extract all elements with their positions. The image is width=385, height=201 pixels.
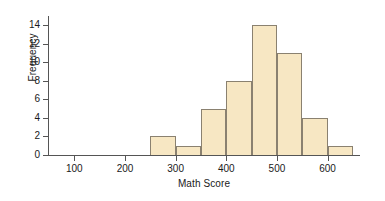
histogram-bar	[201, 109, 226, 155]
y-axis-tick-label: 4	[22, 113, 40, 123]
y-axis-tick-label: 12	[22, 39, 40, 49]
histogram-bar	[226, 81, 251, 155]
y-axis-tick-label: 6	[22, 94, 40, 104]
y-axis-tick-mark	[43, 44, 48, 45]
y-axis-tick-mark	[43, 99, 48, 100]
y-axis-tick-mark	[43, 25, 48, 26]
x-axis-tick-mark	[277, 156, 278, 161]
histogram-bar	[150, 136, 175, 155]
histogram-bar	[277, 53, 302, 155]
y-axis-tick-label: 2	[22, 131, 40, 141]
y-axis-tick-label: 8	[22, 76, 40, 86]
y-axis-tick-mark	[43, 155, 48, 156]
x-axis-tick-label: 500	[257, 163, 297, 174]
histogram-bar	[252, 25, 277, 155]
y-axis-tick-labels: 02468101214	[18, 0, 40, 201]
y-axis-tick-mark	[43, 81, 48, 82]
x-axis-line	[48, 155, 360, 156]
x-axis-title: Math Score	[48, 178, 360, 189]
y-axis-tick-label: 0	[22, 150, 40, 160]
plot-area	[49, 16, 360, 155]
x-axis-tick-mark	[125, 156, 126, 161]
x-axis-tick-label: 200	[105, 163, 145, 174]
y-axis-tick-label: 14	[22, 20, 40, 30]
x-axis-tick-label: 100	[54, 163, 94, 174]
y-axis-tick-mark	[43, 62, 48, 63]
x-axis-tick-mark	[74, 156, 75, 161]
histogram-bar	[176, 146, 201, 155]
x-axis-tick-mark	[176, 156, 177, 161]
histogram-bar	[302, 118, 327, 155]
histogram-bar	[328, 146, 353, 155]
y-axis-tick-mark	[43, 118, 48, 119]
x-axis-tick-mark	[328, 156, 329, 161]
y-axis-tick-label: 10	[22, 57, 40, 67]
histogram-chart: Frequency 02468101214 Math Score 1002003…	[0, 0, 385, 201]
y-axis-tick-mark	[43, 136, 48, 137]
x-axis-tick-mark	[226, 156, 227, 161]
x-axis-tick-label: 400	[206, 163, 246, 174]
x-axis-tick-label: 600	[308, 163, 348, 174]
x-axis-tick-label: 300	[156, 163, 196, 174]
